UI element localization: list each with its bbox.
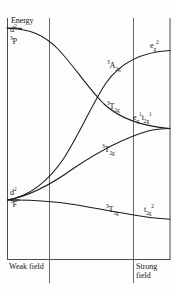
config-superscript-upper: 2 (14, 23, 17, 29)
weak-field-axis-label: Weak field (9, 263, 44, 272)
curve-3F-to-3T2g (8, 129, 171, 201)
state-subscript-3A2g: 2g (115, 66, 120, 72)
orbital-subscript-2g: 2g (146, 210, 151, 216)
strong-field-axis-label: Strong field (136, 263, 157, 281)
orbital-superscript-1b-mixed: 1 (149, 111, 152, 117)
state-label-3T1g-lower: 3T1g (106, 206, 119, 215)
state-subscript-3T1g-lower: 1g (114, 210, 119, 216)
orbital-subscript-2g-mixed: 2g (144, 118, 149, 124)
field-divider-lines (50, 18, 134, 283)
term-symbol-3P: P (13, 37, 17, 46)
config-label-eg1t2g1: eg1t2g1 (133, 114, 152, 122)
config-label-t2g2: t2g2 (144, 206, 154, 214)
free-ion-config-lower: d2 (10, 189, 17, 198)
state-label-3T2g: 3T2g (102, 146, 115, 155)
orbital-subscript-g: g (153, 46, 156, 52)
term-symbol-3F: F (13, 200, 17, 209)
state-label-3A2g: 3A2g (107, 62, 121, 71)
state-subscript-3T1g-upper: 1g (115, 107, 120, 113)
diagram-canvas (0, 0, 175, 293)
free-ion-config-upper: d2 (10, 26, 17, 35)
orbital-superscript-2: 2 (156, 39, 159, 45)
free-ion-term-3F: 3F (10, 201, 17, 210)
orbital-superscript-2b: 2 (151, 203, 154, 209)
correlation-curves (7, 28, 170, 219)
correlation-diagram: Energy d2 3P d2 3F eg2 3A2g 3T1g eg1t2g1… (0, 0, 175, 293)
free-ion-term-3P: 3P (10, 38, 17, 47)
config-label-eg2: eg2 (150, 42, 159, 50)
free-ion-level-lines (7, 28, 22, 200)
orbital-subscript-g-mixed: g (136, 118, 139, 124)
state-label-3T1g-upper: 3T1g (107, 103, 120, 112)
config-superscript-lower: 2 (14, 186, 17, 192)
state-subscript-3T2g: 2g (110, 150, 115, 156)
